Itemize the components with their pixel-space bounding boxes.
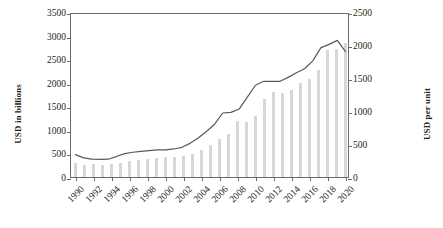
- y-axis-left-tick-label: 500: [52, 151, 66, 161]
- y-axis-left-tick-label: 1000: [47, 127, 66, 137]
- y-axis-right-tick-label: 1000: [353, 108, 372, 118]
- y-axis-left-tick-label: 1500: [47, 104, 66, 114]
- x-axis-tick-label: 1992: [83, 184, 104, 205]
- x-axis-tick-label: 2006: [209, 184, 230, 205]
- y-axis-right-tick-label: 2500: [353, 9, 372, 19]
- line-series: [76, 40, 346, 159]
- x-axis-tick-label: 1998: [137, 184, 158, 205]
- y-axis-right-title: USD per unit: [422, 64, 432, 164]
- x-axis-tick-label: 2020: [335, 184, 356, 205]
- x-axis-tick-label: 2014: [281, 184, 302, 205]
- y-axis-right-tick-label: 500: [353, 141, 367, 151]
- y-axis-left-tick-label: 3000: [47, 33, 66, 43]
- y-axis-right-tick-label: 2000: [353, 42, 372, 52]
- x-axis-tick-label: 2004: [191, 184, 212, 205]
- y-axis-left-title: USD in billions: [13, 64, 23, 164]
- y-axis-left-tick-mark: [67, 179, 71, 180]
- x-axis-tick-label: 2000: [155, 184, 176, 205]
- x-axis-tick-label: 2016: [299, 184, 320, 205]
- x-axis-tick-label: 1990: [65, 184, 86, 205]
- x-axis-tick-label: 2010: [245, 184, 266, 205]
- x-axis-tick-label: 2018: [317, 184, 338, 205]
- y-axis-left-tick-label: 2000: [47, 80, 66, 90]
- x-axis-tick-label: 2012: [263, 184, 284, 205]
- x-axis-tick-label: 2008: [227, 184, 248, 205]
- y-axis-right-tick-label: 1500: [353, 75, 372, 85]
- y-axis-left-tick-label: 3500: [47, 9, 66, 19]
- x-axis-tick-label: 2002: [173, 184, 194, 205]
- plot-area: 0500100015002000250030003500 05001000150…: [70, 13, 349, 178]
- y-axis-left-tick-label: 2500: [47, 56, 66, 66]
- y-axis-right-tick-mark: [348, 179, 352, 180]
- y-axis-left-tick-label: 0: [61, 174, 66, 184]
- line-series-path: [71, 14, 350, 179]
- y-axis-right-tick-label: 0: [353, 174, 358, 184]
- line-series-layer: [71, 14, 348, 177]
- chart-container: USD in billions USD per unit 05001000150…: [0, 0, 443, 228]
- x-axis-tick-label: 1994: [101, 184, 122, 205]
- x-axis-tick-label: 1996: [119, 184, 140, 205]
